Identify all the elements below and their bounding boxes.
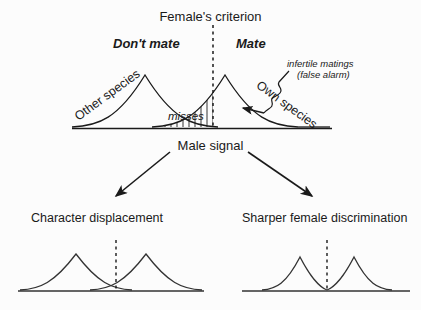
criterion-title: Female's criterion [0, 10, 421, 23]
x-axis-label: Male signal [0, 139, 421, 152]
arrow-to-sharper-discrimination [248, 152, 312, 196]
annotation-arrow [243, 108, 264, 113]
arrow-to-character-displacement [116, 152, 170, 196]
curve-right-panel-b [327, 257, 392, 290]
curve-left-panel-a [20, 254, 132, 290]
outcome-title-left: Character displacement [31, 212, 163, 225]
annotation-line-1: infertile matings [287, 59, 354, 69]
curve-left-panel-b [90, 254, 202, 290]
region-label-dont-mate: Don't mate [113, 37, 180, 50]
curve-right-panel-a [262, 257, 327, 290]
annotation-line-2: (false alarm) [297, 70, 350, 80]
figure-graphics [0, 0, 421, 310]
outcome-title-right: Sharper female discrimination [242, 212, 407, 225]
region-label-mate: Mate [236, 37, 266, 50]
signal-detection-figure: Female's criterion Don't mate Mate infer… [0, 0, 421, 310]
misses-label: misses [168, 111, 204, 123]
